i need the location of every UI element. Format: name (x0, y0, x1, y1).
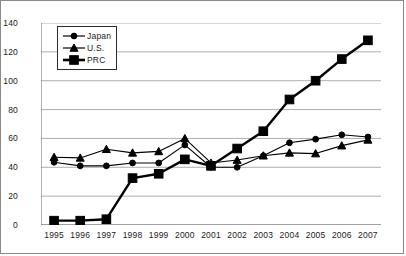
data-point-marker (103, 163, 109, 169)
legend-label: PRC (87, 56, 106, 65)
data-point-marker (76, 216, 85, 225)
data-point-marker (337, 55, 346, 64)
data-point-marker (285, 95, 294, 104)
y-axis-label: 140 (0, 19, 18, 28)
y-axis-label: 0 (0, 221, 18, 230)
legend-label: U.S. (87, 44, 104, 53)
y-axis-label: 60 (0, 134, 18, 143)
data-point-marker (50, 216, 59, 225)
y-axis-label: 80 (0, 105, 18, 114)
x-axis-label: 2007 (351, 231, 385, 240)
data-point-marker (70, 56, 79, 65)
data-point-marker (102, 145, 110, 152)
data-point-marker (287, 140, 293, 146)
data-point-marker (102, 215, 111, 224)
data-point-marker (77, 163, 83, 169)
data-point-marker (207, 162, 216, 171)
data-point-marker (259, 127, 268, 136)
data-point-marker (364, 36, 373, 45)
data-point-marker (311, 76, 320, 85)
data-point-marker (181, 155, 190, 164)
data-point-marker (182, 142, 188, 148)
data-point-marker (339, 132, 345, 138)
y-axis-label: 20 (0, 192, 18, 201)
data-point-marker (154, 169, 163, 178)
y-axis-label: 40 (0, 163, 18, 172)
legend-item-us: U.S. (61, 42, 111, 54)
chart-legend: JapanU.S.PRC (57, 26, 117, 70)
data-point-marker (71, 33, 77, 39)
data-point-marker (234, 164, 240, 170)
legend-item-prc: PRC (61, 54, 111, 66)
data-point-marker (313, 136, 319, 142)
y-axis-label: 120 (0, 48, 18, 57)
data-point-marker (233, 144, 242, 153)
square-marker-icon (61, 54, 87, 66)
data-point-marker (130, 160, 136, 166)
triangle-marker-icon (61, 42, 87, 54)
legend-label: Japan (87, 32, 111, 41)
chart-frame: 020406080100120140 199519961997199819992… (0, 0, 404, 254)
data-point-marker (128, 174, 137, 183)
circle-marker-icon (61, 30, 87, 42)
y-axis-label: 100 (0, 76, 18, 85)
data-point-marker (156, 160, 162, 166)
legend-item-japan: Japan (61, 30, 111, 42)
